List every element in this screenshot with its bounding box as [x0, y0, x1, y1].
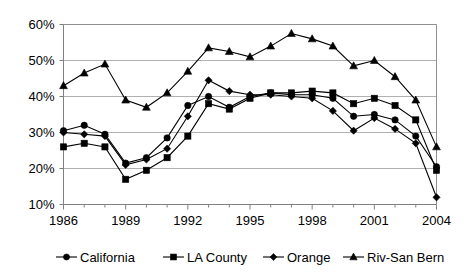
- datapoint-1-2002: [392, 102, 398, 108]
- legend-label-1: LA County: [187, 250, 247, 265]
- datapoint-0-2000: [350, 113, 356, 119]
- chart-background: [0, 0, 474, 277]
- datapoint-1-1987: [81, 140, 87, 146]
- legend-marker-circle: [63, 254, 69, 260]
- datapoint-1-1999: [330, 90, 336, 96]
- x-tick-label-2001: 2001: [360, 213, 389, 228]
- datapoint-1-1990: [143, 167, 149, 173]
- chart-canvas: 10%20%30%40%50%60% 198619891992199519982…: [0, 0, 474, 277]
- x-tick-label-1995: 1995: [236, 213, 265, 228]
- datapoint-0-2002: [392, 117, 398, 123]
- datapoint-0-1992: [185, 102, 191, 108]
- line-chart: 10%20%30%40%50%60% 198619891992199519982…: [0, 0, 474, 277]
- legend-marker-square: [171, 254, 177, 260]
- y-tick-label-30: 30%: [28, 125, 54, 140]
- legend-label-3: Riv-San Bern: [367, 250, 444, 265]
- datapoint-1-2004: [433, 167, 439, 173]
- x-tick-label-2004: 2004: [422, 213, 451, 228]
- datapoint-1-1989: [123, 176, 129, 182]
- datapoint-0-1993: [205, 93, 211, 99]
- datapoint-1-1993: [205, 101, 211, 107]
- datapoint-1-1994: [226, 106, 232, 112]
- datapoint-1-1986: [60, 144, 66, 150]
- datapoint-0-2003: [413, 133, 419, 139]
- x-tick-label-1998: 1998: [298, 213, 327, 228]
- legend-label-0: California: [80, 250, 136, 265]
- datapoint-1-1992: [185, 133, 191, 139]
- x-tick-label-1986: 1986: [49, 213, 78, 228]
- y-tick-label-50: 50%: [28, 53, 54, 68]
- datapoint-1-1991: [164, 155, 170, 161]
- x-tick-label-1989: 1989: [111, 213, 140, 228]
- x-tick-label-1992: 1992: [173, 213, 202, 228]
- datapoint-1-1988: [102, 144, 108, 150]
- y-tick-label-60: 60%: [28, 17, 54, 32]
- datapoint-1-2003: [413, 117, 419, 123]
- datapoint-1-2001: [371, 95, 377, 101]
- datapoint-1-1998: [309, 88, 315, 94]
- y-tick-label-20: 20%: [28, 161, 54, 176]
- datapoint-0-1991: [164, 135, 170, 141]
- y-tick-label-10: 10%: [28, 197, 54, 212]
- datapoint-0-1987: [81, 122, 87, 128]
- datapoint-1-2000: [351, 101, 357, 107]
- y-tick-label-40: 40%: [28, 89, 54, 104]
- legend-label-2: Orange: [287, 250, 330, 265]
